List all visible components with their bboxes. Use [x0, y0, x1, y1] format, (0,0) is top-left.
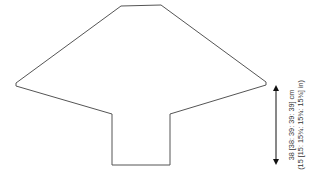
measurement-arrow-icon	[273, 85, 279, 165]
measurement-label: 38 [38: 39: 39: 39] cm (15 [15: 15¾: 15¾…	[287, 80, 305, 170]
measurement-in: (15 [15: 15¾: 15¾: 15¾] in)	[296, 80, 305, 170]
garment-shape	[16, 5, 266, 165]
measurement-cm: 38 [38: 39: 39: 39] cm	[287, 80, 296, 170]
schematic-outline	[0, 0, 314, 195]
